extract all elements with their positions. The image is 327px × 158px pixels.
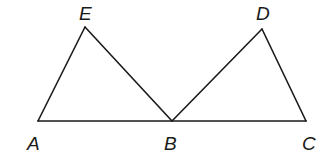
segment-b-d bbox=[172, 29, 262, 121]
vertex-label-c: C bbox=[302, 133, 316, 154]
vertex-label-d: D bbox=[256, 3, 270, 24]
edges bbox=[38, 27, 306, 121]
geometry-diagram: A E B D C bbox=[0, 0, 327, 158]
segment-d-c bbox=[262, 29, 306, 121]
vertex-label-a: A bbox=[26, 133, 40, 154]
vertex-label-b: B bbox=[164, 133, 177, 154]
segment-e-b bbox=[85, 27, 172, 121]
vertex-label-e: E bbox=[79, 3, 92, 24]
segment-a-e bbox=[38, 27, 85, 121]
vertex-labels: A E B D C bbox=[26, 3, 316, 154]
